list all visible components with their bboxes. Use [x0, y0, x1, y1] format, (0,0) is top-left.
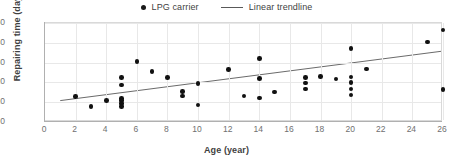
plot-area [44, 22, 442, 121]
gridline-vertical [412, 23, 413, 120]
x-tick-label: 20 [338, 124, 362, 134]
x-tick-label: 26 [430, 124, 453, 134]
gridline-vertical [137, 23, 138, 120]
data-point [257, 96, 262, 101]
data-point [303, 87, 308, 92]
data-point [135, 59, 140, 64]
data-point [318, 74, 323, 79]
y-tick-label: 0 [0, 116, 5, 126]
data-point [257, 56, 262, 61]
data-point [425, 40, 430, 45]
data-point [303, 75, 308, 80]
x-tick-label: 24 [399, 124, 423, 134]
x-tick-label: 6 [124, 124, 148, 134]
x-tick-label: 22 [369, 124, 393, 134]
gridline-vertical [321, 23, 322, 120]
data-point [150, 69, 155, 74]
y-axis-line [44, 22, 45, 122]
x-tick-label: 16 [277, 124, 301, 134]
gridline-vertical [106, 23, 107, 120]
trendline-segment [60, 51, 441, 100]
data-point [226, 67, 231, 72]
data-point [303, 81, 308, 86]
gridline-vertical [259, 23, 260, 120]
y-tick-label: 50 [0, 17, 5, 27]
data-point [257, 76, 262, 81]
gridline-vertical [382, 23, 383, 120]
x-tick-label: 0 [32, 124, 56, 134]
data-point [119, 75, 124, 80]
data-point [165, 75, 170, 80]
data-point [104, 98, 109, 103]
y-tick-label: 20 [0, 76, 5, 86]
gridline-vertical [443, 23, 444, 120]
data-point [89, 104, 94, 109]
scatter-chart: LPG carrier Linear trendline Repairing t… [0, 0, 453, 165]
gridline-vertical [290, 23, 291, 120]
x-tick-label: 8 [154, 124, 178, 134]
x-tick-label: 2 [63, 124, 87, 134]
x-tick-label: 10 [185, 124, 209, 134]
gridline-vertical [167, 23, 168, 120]
x-tick-label: 12 [216, 124, 240, 134]
gridline-vertical [351, 23, 352, 120]
data-point [73, 94, 78, 99]
x-tick-label: 18 [308, 124, 332, 134]
data-point [364, 67, 369, 72]
gridline-vertical [76, 23, 77, 120]
x-axis-line [44, 121, 442, 122]
data-point [119, 104, 124, 109]
y-tick-label: 30 [0, 57, 5, 67]
y-tick-label: 40 [0, 37, 5, 47]
x-tick-label: 14 [246, 124, 270, 134]
y-tick-label: 10 [0, 96, 5, 106]
x-tick-label: 4 [93, 124, 117, 134]
